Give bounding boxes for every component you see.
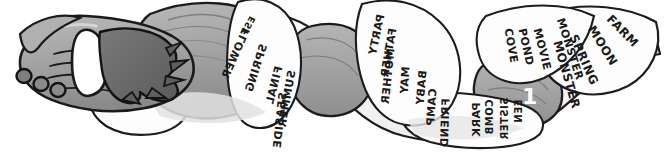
glove-fringe	[99, 28, 178, 103]
illustration-canvas: 1	[0, 0, 666, 155]
scroll-illustration: 1	[0, 0, 666, 155]
ring-icon	[51, 83, 66, 97]
ring-icon	[17, 69, 32, 83]
ring-icon	[34, 77, 49, 91]
